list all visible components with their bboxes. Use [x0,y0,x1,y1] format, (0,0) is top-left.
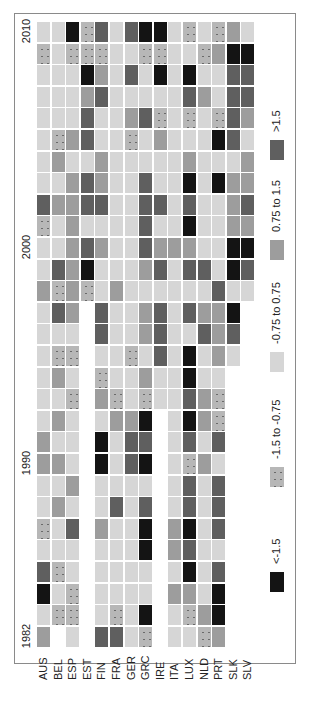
heatmap-cell [110,432,123,452]
heatmap-cell [95,173,108,193]
heatmap-cell [154,216,167,236]
heatmap-cell [125,130,138,150]
heatmap-cell [168,411,181,431]
heatmap-cell [125,216,138,236]
heatmap-cell [183,368,196,388]
heatmap-cell [198,65,211,85]
heatmap-cell [139,324,152,344]
heatmap-cell [125,195,138,215]
heatmap-cell [212,195,225,215]
country-label: LUX [183,659,195,680]
heatmap-cell [110,260,123,280]
heatmap-cell [52,195,65,215]
heatmap-cell [198,87,211,107]
heatmap-cell [125,260,138,280]
heatmap-cell [110,562,123,582]
heatmap-cell [168,324,181,344]
heatmap-cell [168,87,181,107]
heatmap-cell [212,22,225,42]
heatmap-cell [198,324,211,344]
heatmap-cell [198,281,211,301]
heatmap-cell [52,324,65,344]
heatmap-cell [81,411,94,431]
heatmap-cell [212,65,225,85]
heatmap-cell [227,389,240,409]
heatmap-cell [110,216,123,236]
heatmap-cell [183,540,196,560]
heatmap-cell [168,303,181,323]
heatmap-cell [125,152,138,172]
heatmap-cell [52,87,65,107]
heatmap-cell [125,562,138,582]
heatmap-cell [154,281,167,301]
heatmap-cell [227,152,240,172]
heatmap-cell [212,260,225,280]
heatmap-cell [37,432,50,452]
heatmap-cell [139,281,152,301]
heatmap-cell [125,324,138,344]
heatmap-cell [227,216,240,236]
heatmap-cell [52,44,65,64]
heatmap-cell [168,605,181,625]
heatmap-cell [154,108,167,128]
heatmap-cell [241,108,254,128]
heatmap-cell [212,432,225,452]
heatmap-cell [139,389,152,409]
heatmap-cell [139,303,152,323]
heatmap-cell [241,346,254,366]
heatmap-cell [125,281,138,301]
heatmap-cell [37,303,50,323]
heatmap-cell [52,260,65,280]
heatmap-cell [110,519,123,539]
heatmap-cell [241,562,254,582]
heatmap-cell [66,130,79,150]
heatmap-cell [95,87,108,107]
heatmap-cell [241,260,254,280]
heatmap-cell [139,540,152,560]
heatmap-cell [198,303,211,323]
heatmap-cell [37,562,50,582]
heatmap-cell [95,65,108,85]
country-label: BEL [52,659,64,680]
heatmap-cell [154,303,167,323]
heatmap-cell [52,173,65,193]
heatmap-cell [212,346,225,366]
legend-swatch [270,140,284,160]
heatmap-cell [125,22,138,42]
heatmap-cell [183,195,196,215]
heatmap-cell [227,627,240,647]
heatmap-cell [139,238,152,258]
heatmap-cell [227,281,240,301]
heatmap-cell [154,238,167,258]
heatmap-cell [183,411,196,431]
heatmap-cell [198,216,211,236]
heatmap-cell [212,627,225,647]
heatmap-cell [52,303,65,323]
heatmap-cell [66,562,79,582]
heatmap-cell [125,584,138,604]
heatmap-cell [168,562,181,582]
heatmap-cell [66,411,79,431]
heatmap-cell [198,411,211,431]
heatmap-cell [81,584,94,604]
heatmap-cell [37,411,50,431]
heatmap-cell [52,411,65,431]
heatmap-cell [37,519,50,539]
heatmap-cell [227,108,240,128]
heatmap-cell [154,65,167,85]
heatmap-cell [125,411,138,431]
heatmap-cell [154,627,167,647]
heatmap-cell [154,22,167,42]
legend-swatch [270,352,284,372]
heatmap-cell [227,476,240,496]
heatmap-cell [110,368,123,388]
year-tick-label: 1982 [20,624,32,648]
heatmap-cell [95,368,108,388]
heatmap-cell [95,605,108,625]
heatmap-cell [168,476,181,496]
heatmap-cell [66,195,79,215]
heatmap-cell [110,497,123,517]
heatmap-cell [241,216,254,236]
heatmap-cell [95,497,108,517]
heatmap-cell [66,476,79,496]
